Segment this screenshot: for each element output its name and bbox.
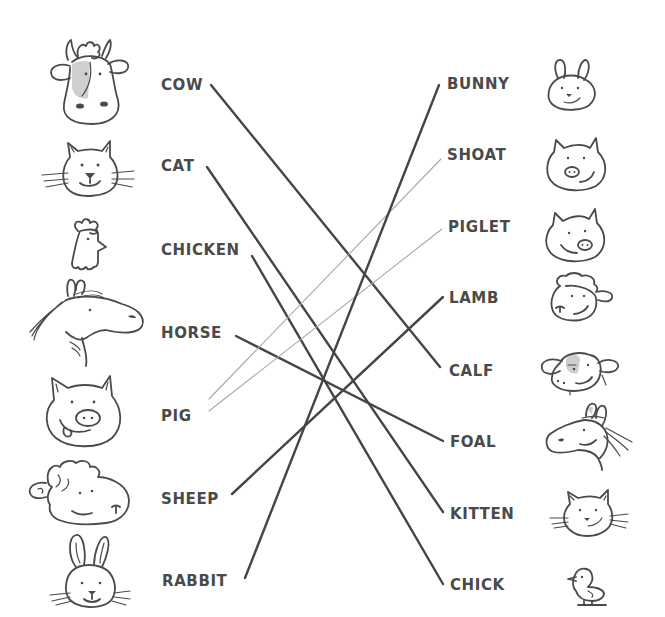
bunny-face-icon [546, 58, 598, 112]
line-rabbit-bunny [245, 85, 439, 578]
word-horse: HORSE [161, 324, 222, 342]
cat-face-icon [40, 139, 136, 199]
kitten-face-icon [548, 490, 630, 540]
pig-face-icon [44, 374, 124, 448]
line-pig-shoat [209, 159, 441, 399]
matching-worksheet: COW CAT CHICKEN HORSE PIG SHEEP RABBIT B… [0, 0, 665, 617]
word-rabbit: RABBIT [162, 572, 227, 590]
word-cow: COW [161, 76, 203, 94]
horse-head-icon [26, 276, 148, 366]
word-bunny: BUNNY [447, 75, 510, 93]
word-sheep: SHEEP [161, 490, 219, 508]
line-cow-calf [211, 85, 440, 367]
word-cat: CAT [161, 157, 195, 175]
word-calf: CALF [449, 362, 494, 380]
word-pig: PIG [161, 407, 192, 425]
foal-head-icon [544, 402, 636, 472]
word-lamb: LAMB [449, 289, 499, 307]
word-piglet: PIGLET [448, 218, 511, 236]
word-chicken: CHICKEN [161, 241, 240, 259]
sheep-face-icon [28, 459, 132, 527]
lamb-face-icon [548, 272, 616, 324]
word-shoat: SHOAT [447, 146, 506, 164]
line-pig-piglet [209, 229, 442, 411]
word-chick: CHICK [450, 576, 505, 594]
word-foal: FOAL [450, 433, 496, 451]
piglet-face-icon [545, 207, 607, 263]
shoat-face-icon [546, 138, 608, 192]
cow-face-icon [48, 38, 132, 126]
chick-icon [560, 567, 610, 607]
rabbit-face-icon [48, 533, 132, 613]
line-cat-kitten [207, 167, 443, 512]
calf-face-icon [540, 349, 622, 397]
line-sheep-lamb [232, 297, 443, 494]
chicken-head-icon [66, 217, 116, 273]
word-kitten: KITTEN [450, 505, 514, 523]
line-chicken-chick [252, 256, 443, 584]
line-horse-foal [236, 336, 443, 441]
